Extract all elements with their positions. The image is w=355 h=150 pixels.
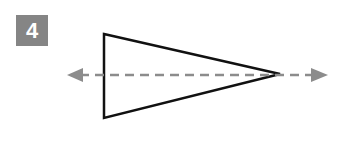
triangle-symmetry-diagram (0, 0, 355, 150)
arrow-right-icon (311, 68, 328, 82)
arrow-left-icon (67, 68, 83, 82)
